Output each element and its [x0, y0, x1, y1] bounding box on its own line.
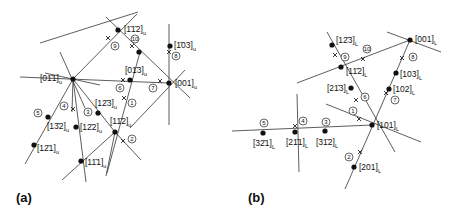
pole-label: [13̄2]u	[47, 121, 69, 133]
trace-line	[115, 132, 141, 160]
marker-9: 9	[341, 53, 349, 61]
marker-7: 7	[391, 96, 399, 104]
pole-dot	[167, 43, 172, 48]
pole-dot	[95, 110, 100, 115]
pole-dot	[112, 129, 117, 134]
pole-dot	[136, 49, 141, 54]
pole-label: [11̄1]u	[85, 157, 106, 169]
pole-dot	[407, 37, 412, 42]
pole-dot	[115, 27, 120, 32]
pole-label: [102]L	[393, 84, 415, 96]
marker-9: 9	[111, 42, 119, 50]
marker-4: 4	[60, 102, 68, 110]
marker-10: 10	[363, 45, 371, 53]
svg-text:10: 10	[132, 36, 139, 42]
pole-dot	[322, 128, 327, 133]
marker-1: 1	[128, 99, 136, 107]
pole-label: [103]L	[400, 69, 422, 81]
trace-line	[232, 125, 372, 131]
pole-dot	[329, 42, 334, 47]
marker-10: 10	[131, 35, 139, 43]
pole-label: [12̄3]u	[95, 98, 117, 110]
pole-dot	[166, 80, 171, 85]
marker-2: 2	[345, 153, 353, 161]
pole-dot	[127, 77, 132, 82]
pole-label: [32̄1]L	[253, 138, 275, 150]
pole-label: [101]L	[377, 120, 399, 132]
pole-label: [201]L	[359, 162, 381, 174]
pole-label: [01̄3]u	[125, 65, 147, 77]
marker-3: 3	[322, 118, 330, 126]
svg-text:10: 10	[364, 46, 371, 52]
marker-3: 3	[84, 108, 92, 116]
pole-label: [12̄1]u	[37, 143, 59, 155]
pole-dot	[73, 124, 78, 129]
trace-line	[297, 40, 410, 83]
pole-dot	[70, 76, 75, 81]
marker-6: 6	[116, 84, 124, 92]
pole-label: [1̄1̄2]u	[124, 24, 146, 36]
pole-label: [11̄2]u	[110, 116, 131, 128]
marker-1: 1	[349, 107, 357, 115]
pole-label: [001]L	[415, 34, 437, 46]
pole-dot	[393, 70, 398, 75]
pole-dot	[351, 164, 356, 169]
pole-dot	[31, 142, 36, 147]
diagram-a: 9 10 8 6 7 1 4 3 5 2 [1̄1̄2]u [1̄03]u [0…	[20, 12, 197, 182]
pole-dot	[386, 86, 391, 91]
diagram-b: 9 10 8 6 7 1 5 4 3 2 [12̄3]L [001]L [11̄…	[232, 32, 441, 189]
pole-label: [12̄2]u	[80, 122, 102, 134]
marker-8: 8	[172, 52, 180, 60]
pole-label: [31̄2]L	[316, 137, 338, 149]
pole-dot	[260, 130, 265, 135]
pole-dot	[338, 64, 343, 69]
marker-5: 5	[34, 109, 42, 117]
pole-dot	[369, 122, 374, 127]
trace-line	[72, 79, 73, 112]
pole-label: [12̄3]L	[336, 35, 358, 47]
pole-label: [1̄03]u	[174, 40, 196, 52]
marker-7: 7	[149, 84, 157, 92]
pole-label: [21̄3]L	[327, 83, 349, 95]
marker-2: 2	[128, 135, 136, 143]
pole-dot	[348, 85, 353, 90]
panel-label-a: (a)	[16, 190, 32, 205]
pole-label: [11̄2]L	[346, 66, 367, 78]
panel-label-b: (b)	[248, 190, 265, 205]
pole-label: [21̄1]L	[286, 137, 308, 149]
marker-5: 5	[260, 119, 268, 127]
stereographic-diagrams: 9 10 8 6 7 1 4 3 5 2 [1̄1̄2]u [1̄03]u [0…	[0, 0, 457, 216]
pole-dot	[78, 158, 83, 163]
pole-label: [001]u	[175, 78, 197, 90]
pole-dot	[45, 114, 50, 119]
pole-dot	[292, 129, 297, 134]
marker-8: 8	[409, 53, 417, 61]
pole-label: [01̄1]u	[40, 73, 62, 85]
marker-6: 6	[361, 93, 369, 101]
marker-4: 4	[299, 117, 307, 125]
